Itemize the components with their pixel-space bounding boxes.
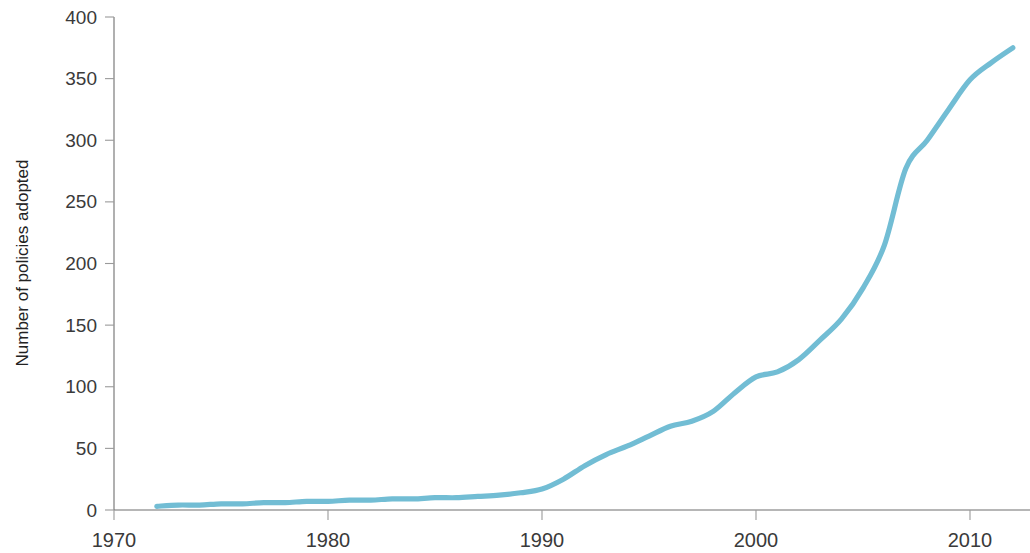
x-axis-ticks [114,510,970,520]
data-series-group [157,48,1013,506]
x-tick-label-2000: 2000 [734,529,779,551]
chart-canvas: 050100150200250300350400 197019801990200… [0,0,1030,553]
y-tick-label-150: 150 [65,315,97,336]
y-tick-label-300: 300 [65,130,97,151]
y-tick-label-100: 100 [65,376,97,397]
line-chart: 050100150200250300350400 197019801990200… [0,0,1030,553]
x-tick-label-1980: 1980 [306,529,351,551]
x-tick-label-1970: 1970 [92,529,137,551]
y-axis-title: Number of policies adopted [13,160,32,367]
y-axis-tick-labels: 050100150200250300350400 [65,7,97,521]
x-tick-label-2010: 2010 [948,529,993,551]
x-axis-tick-labels: 19701980199020002010 [92,529,993,551]
y-tick-label-50: 50 [76,438,97,459]
x-axis: 19701980199020002010 [92,510,1030,551]
y-axis-ticks [105,17,114,510]
y-axis: 050100150200250300350400 [65,7,114,521]
y-tick-label-250: 250 [65,191,97,212]
y-tick-label-350: 350 [65,68,97,89]
data-line-policies-adopted [157,48,1013,506]
y-tick-label-0: 0 [86,500,97,521]
y-tick-label-400: 400 [65,7,97,28]
y-tick-label-200: 200 [65,253,97,274]
x-tick-label-1990: 1990 [520,529,565,551]
